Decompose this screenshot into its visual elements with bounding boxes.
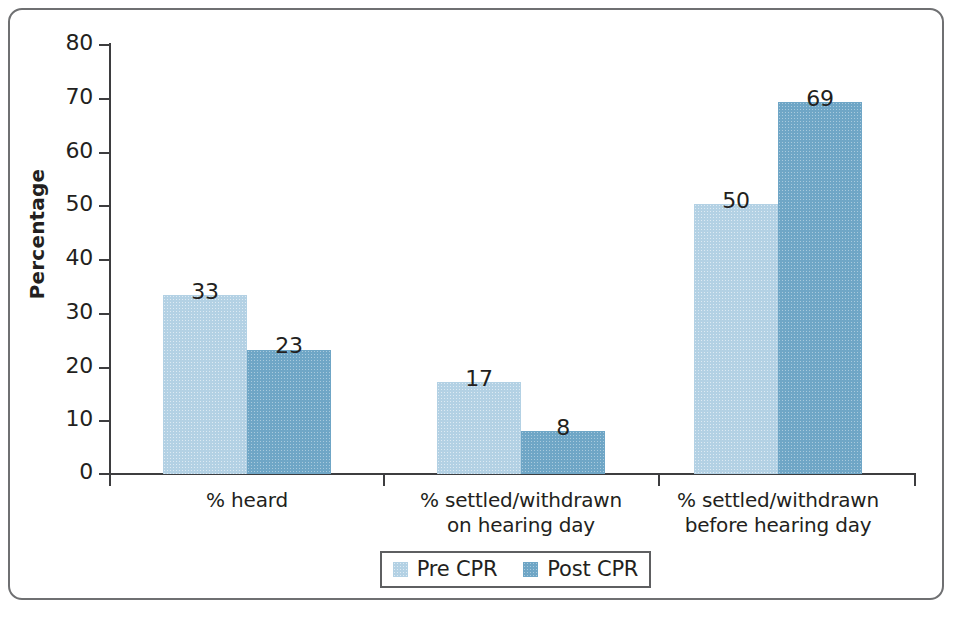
y-axis-tick-mark — [99, 313, 109, 315]
legend-label: Pre CPR — [417, 559, 498, 580]
y-axis-tick-mark — [99, 152, 109, 154]
bar-group-2-pre — [437, 43, 521, 474]
bar-group-3-pre — [694, 43, 778, 474]
category-label-line: % heard — [157, 488, 337, 513]
bar[interactable] — [163, 295, 247, 474]
legend-label: Post CPR — [547, 559, 638, 580]
bar-group-2-post — [521, 43, 605, 474]
bar-value-label: 33 — [165, 281, 245, 303]
bar[interactable] — [437, 382, 521, 474]
category-label-line: before hearing day — [668, 513, 888, 538]
y-axis-tick-label: 80 — [47, 32, 93, 54]
legend-swatch-icon — [523, 562, 538, 577]
y-axis-tick-mark — [99, 473, 109, 475]
category-label-line: % settled/withdrawn — [411, 488, 631, 513]
x-axis-category-label-2: % settled/withdrawn on hearing day — [411, 488, 631, 538]
y-axis-tick-mark — [99, 44, 109, 46]
y-axis-tick-label: 10 — [47, 408, 93, 430]
bar-value-label: 69 — [780, 88, 860, 110]
y-axis-title: Percentage — [25, 164, 49, 304]
bar-value-label: 23 — [249, 335, 329, 357]
legend-entry-post-cpr[interactable]: Post CPR — [523, 559, 638, 580]
y-axis-tick-70: 70 — [0, 98, 109, 100]
y-axis-tick-mark — [99, 367, 109, 369]
y-axis-tick-mark — [99, 205, 109, 207]
y-axis-tick-label: 0 — [47, 461, 93, 483]
y-axis-tick-mark — [99, 259, 109, 261]
y-axis-tick-label: 20 — [47, 355, 93, 377]
y-axis-tick-10: 10 — [0, 420, 109, 422]
y-axis-tick-60: 60 — [0, 152, 109, 154]
legend: Pre CPR Post CPR — [380, 551, 651, 588]
bar-chart: Percentage 80 70 60 50 40 30 20 10 0 — [0, 0, 962, 620]
y-axis-tick-mark — [99, 420, 109, 422]
bar[interactable] — [247, 350, 331, 474]
bar[interactable] — [694, 204, 778, 474]
y-axis-tick-mark — [99, 98, 109, 100]
legend-swatch-icon — [393, 562, 408, 577]
y-axis-tick-label: 70 — [47, 86, 93, 108]
bar[interactable] — [778, 102, 862, 474]
y-axis-tick-label: 60 — [47, 140, 93, 162]
bar-group-1-pre — [163, 43, 247, 474]
bar-group-1-post — [247, 43, 331, 474]
legend-entry-pre-cpr[interactable]: Pre CPR — [393, 559, 498, 580]
y-axis-tick-label: 40 — [47, 247, 93, 269]
y-axis-tick-label: 30 — [47, 301, 93, 323]
y-axis-tick-30: 30 — [0, 313, 109, 315]
y-axis-tick-40: 40 — [0, 259, 109, 261]
y-axis-tick-label: 50 — [47, 193, 93, 215]
x-axis-separator-tick — [658, 475, 660, 486]
y-axis-line — [109, 43, 111, 475]
y-axis-tick-0: 0 — [0, 473, 109, 475]
y-axis-tick-80: 80 — [0, 44, 109, 46]
bar-value-label: 8 — [523, 417, 603, 439]
category-label-line: % settled/withdrawn — [668, 488, 888, 513]
bar-value-label: 17 — [439, 368, 519, 390]
y-axis-tick-20: 20 — [0, 367, 109, 369]
x-axis-category-label-1: % heard — [157, 488, 337, 513]
x-axis-end-tick — [914, 475, 916, 486]
x-axis-separator-tick — [109, 475, 111, 486]
x-axis-separator-tick — [383, 475, 385, 486]
category-label-line: on hearing day — [411, 513, 631, 538]
y-axis-tick-50: 50 — [0, 205, 109, 207]
bar-value-label: 50 — [696, 190, 776, 212]
x-axis-category-label-3: % settled/withdrawn before hearing day — [668, 488, 888, 538]
